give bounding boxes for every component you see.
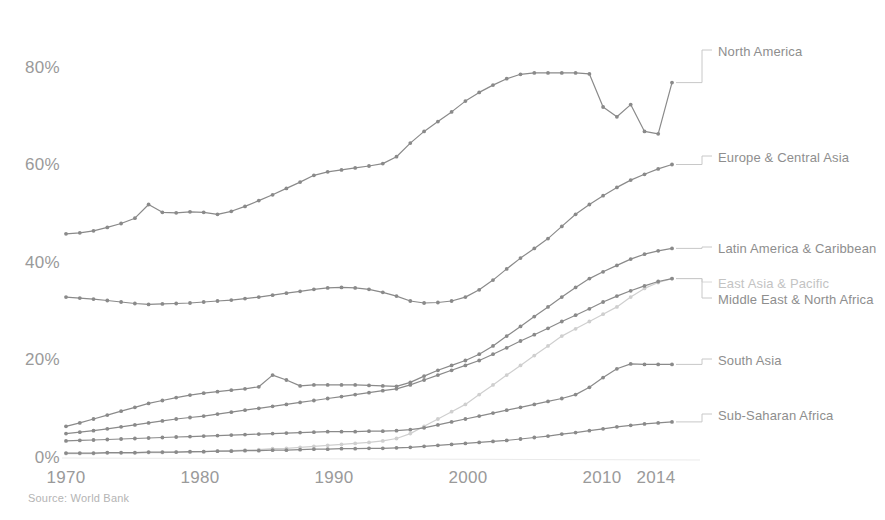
- data-point: [670, 420, 674, 424]
- data-point: [353, 383, 357, 387]
- data-point: [643, 130, 647, 134]
- data-point: [188, 416, 192, 420]
- series-east-asia-pacific: [64, 277, 674, 456]
- x-axis-line: [62, 458, 700, 460]
- data-point: [408, 299, 412, 303]
- data-point: [574, 313, 578, 317]
- data-point: [216, 434, 220, 438]
- data-point: [574, 327, 578, 331]
- data-point: [381, 429, 385, 433]
- data-point: [560, 71, 564, 75]
- data-point: [381, 290, 385, 294]
- data-point: [395, 155, 399, 159]
- data-point: [395, 294, 399, 298]
- data-point: [257, 432, 261, 436]
- data-point: [588, 320, 592, 324]
- data-point: [243, 433, 247, 437]
- data-point: [161, 450, 165, 454]
- data-point: [285, 431, 289, 435]
- data-point: [588, 429, 592, 433]
- data-point: [464, 295, 468, 299]
- data-point: [560, 432, 564, 436]
- data-point: [615, 367, 619, 371]
- data-point: [353, 430, 357, 434]
- data-point: [64, 295, 68, 299]
- data-point: [574, 212, 578, 216]
- data-point: [477, 91, 481, 95]
- series-middle-east-north-africa: [64, 277, 674, 436]
- data-point: [601, 376, 605, 380]
- data-point: [202, 450, 206, 454]
- data-point: [601, 270, 605, 274]
- data-point: [546, 400, 550, 404]
- data-point: [133, 423, 137, 427]
- data-point: [546, 237, 550, 241]
- data-point: [408, 141, 412, 145]
- data-point: [546, 434, 550, 438]
- data-point: [643, 422, 647, 426]
- data-point: [588, 203, 592, 207]
- data-point: [381, 446, 385, 450]
- data-point: [202, 414, 206, 418]
- data-point: [147, 303, 151, 307]
- data-point: [312, 447, 316, 451]
- data-point: [326, 170, 330, 174]
- line-chart: 0% 20% 40% 60% 80% 1970 1980 1990 2000 2…: [0, 0, 885, 520]
- series-label-latin-america-caribbean: Latin America & Caribbean: [718, 241, 876, 256]
- data-point: [422, 426, 426, 430]
- data-point: [519, 339, 523, 343]
- data-point: [656, 363, 660, 367]
- series-label-sub-saharan-africa: Sub-Saharan Africa: [718, 408, 833, 423]
- data-point: [450, 299, 454, 303]
- data-point: [629, 362, 633, 366]
- data-point: [161, 399, 165, 403]
- data-point: [546, 326, 550, 330]
- data-point: [133, 405, 137, 409]
- data-point: [367, 446, 371, 450]
- data-point: [312, 430, 316, 434]
- series-line: [66, 279, 672, 454]
- data-point: [285, 403, 289, 407]
- data-point: [119, 437, 123, 441]
- y-axis-tick-40: 40%: [12, 253, 60, 273]
- leader-line: [676, 359, 712, 364]
- data-point: [491, 344, 495, 348]
- series-label-south-asia: South Asia: [718, 353, 782, 368]
- data-point: [174, 450, 178, 454]
- data-point: [243, 387, 247, 391]
- data-point: [560, 397, 564, 401]
- data-point: [643, 172, 647, 176]
- data-point: [147, 203, 151, 207]
- data-point: [505, 334, 509, 338]
- data-point: [229, 209, 233, 213]
- data-point: [312, 399, 316, 403]
- data-point: [381, 389, 385, 393]
- data-point: [271, 293, 275, 297]
- data-point: [519, 405, 523, 409]
- series-label-europe-central-asia: Europe & Central Asia: [718, 150, 849, 165]
- data-point: [229, 388, 233, 392]
- data-point: [436, 120, 440, 124]
- data-point: [285, 187, 289, 191]
- data-point: [615, 264, 619, 268]
- data-point: [519, 256, 523, 260]
- data-point: [477, 393, 481, 397]
- data-point: [450, 443, 454, 447]
- data-point: [161, 436, 165, 440]
- series-label-north-america: North America: [718, 44, 802, 59]
- data-point: [601, 300, 605, 304]
- x-axis-tick-1990: 1990: [294, 468, 374, 488]
- data-point: [670, 277, 674, 281]
- data-point: [546, 344, 550, 348]
- data-point: [119, 425, 123, 429]
- data-point: [505, 439, 509, 443]
- data-point: [119, 300, 123, 304]
- data-point: [436, 423, 440, 427]
- data-point: [257, 295, 261, 299]
- leader-line: [676, 279, 712, 282]
- data-point: [174, 435, 178, 439]
- data-point: [147, 450, 151, 454]
- data-point: [519, 72, 523, 76]
- data-point: [64, 432, 68, 436]
- data-point: [629, 103, 633, 107]
